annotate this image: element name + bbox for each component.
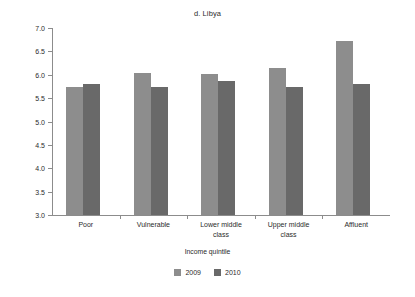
chart-legend: 20092010 (0, 269, 415, 276)
legend-label: 2009 (185, 269, 201, 276)
bar-2009 (134, 73, 151, 215)
x-axis-category-label: Affluent (322, 220, 390, 230)
y-axis-tick-label: 5.0 (23, 118, 45, 125)
x-axis-line (52, 215, 390, 216)
y-axis-tick-label: 3.0 (23, 212, 45, 219)
y-axis-tick-label: 7.0 (23, 25, 45, 32)
plot-area: 3.03.54.04.55.05.56.06.57.0 PoorVulnerab… (52, 28, 390, 215)
chart-title: d. Libya (0, 9, 415, 18)
bar-group (322, 28, 390, 215)
bar-2009 (201, 74, 218, 215)
x-axis-tick-mark (187, 215, 188, 219)
y-axis-tick-label: 4.5 (23, 141, 45, 148)
y-axis-tick-label: 4.0 (23, 165, 45, 172)
legend-item-2009[interactable]: 2009 (174, 269, 201, 276)
legend-item-2010[interactable]: 2010 (214, 269, 241, 276)
legend-label: 2010 (225, 269, 241, 276)
bar-group (52, 28, 120, 215)
x-axis-tick-mark (255, 215, 256, 219)
x-axis-category-label: Vulnerable (120, 220, 188, 230)
y-axis-tick-label: 6.5 (23, 48, 45, 55)
x-axis-category-label: Upper middleclass (255, 220, 323, 239)
x-axis-tick-mark (120, 215, 121, 219)
bar-2009 (269, 68, 286, 215)
bar-group (120, 28, 188, 215)
y-axis-tick-label: 3.5 (23, 188, 45, 195)
y-axis-tick-mark (48, 215, 52, 216)
chart-figure: d. Libya Life evaluation score 3.03.54.0… (0, 0, 415, 297)
bar-2010 (83, 84, 100, 215)
x-axis-category-label: Lower middleclass (187, 220, 255, 239)
legend-swatch-icon (174, 269, 181, 276)
y-axis-tick-label: 5.5 (23, 95, 45, 102)
bar-2010 (353, 84, 370, 215)
bar-2010 (286, 87, 303, 215)
bar-group (187, 28, 255, 215)
bar-group (255, 28, 323, 215)
x-axis-tick-mark (322, 215, 323, 219)
bar-2009 (336, 41, 353, 215)
legend-swatch-icon (214, 269, 221, 276)
bar-2009 (66, 87, 83, 215)
y-axis-tick-label: 6.0 (23, 71, 45, 78)
x-axis-title: Income quintile (0, 248, 415, 255)
x-axis-category-label: Poor (52, 220, 120, 230)
bar-2010 (218, 81, 235, 215)
bar-2010 (151, 87, 168, 215)
